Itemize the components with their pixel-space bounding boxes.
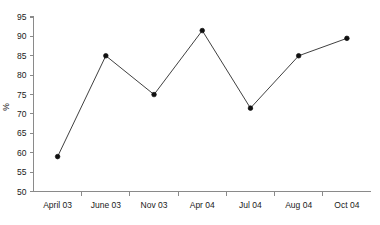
y-tick-label: 85 <box>17 51 27 61</box>
x-tick-label: Jul 04 <box>239 200 262 210</box>
data-point <box>296 53 301 58</box>
y-tick-label: 50 <box>17 187 27 197</box>
data-point <box>345 36 350 41</box>
data-point <box>152 92 157 97</box>
y-tick-label: 55 <box>17 167 27 177</box>
data-point <box>104 53 109 58</box>
x-tick-label: Aug 04 <box>285 200 312 210</box>
y-tick-label: 75 <box>17 90 27 100</box>
x-tick-label: June 03 <box>91 200 122 210</box>
y-tick-label: 80 <box>17 70 27 80</box>
line-chart: 50556065707580859095 April 03June 03Nov … <box>0 0 380 225</box>
y-tick-label: 60 <box>17 148 27 158</box>
x-tick-label: Apr 04 <box>190 200 215 210</box>
x-tick-label: Oct 04 <box>334 200 359 210</box>
data-point <box>248 106 253 111</box>
y-tick-label: 65 <box>17 128 27 138</box>
data-point <box>55 154 60 159</box>
data-point <box>200 28 205 33</box>
y-tick-label: 90 <box>17 31 27 41</box>
chart-canvas: 50556065707580859095 April 03June 03Nov … <box>0 0 380 225</box>
y-tick-label: 95 <box>17 12 27 22</box>
x-tick-label: April 03 <box>43 200 72 210</box>
x-tick-label: Nov 03 <box>141 200 168 210</box>
y-tick-label: 70 <box>17 109 27 119</box>
y-axis-title: % <box>1 103 11 111</box>
